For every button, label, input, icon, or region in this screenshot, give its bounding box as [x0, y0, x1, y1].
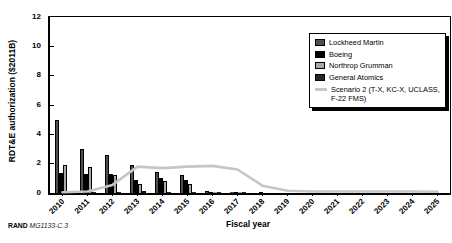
- general-atomics-swatch-icon: [315, 74, 325, 81]
- y-tick-label: 10: [19, 41, 41, 50]
- y-axis-title: RDT&E authorization ($2011B): [7, 21, 17, 181]
- y-tick-label: 0: [19, 188, 41, 197]
- y-tick-label: 12: [19, 12, 41, 21]
- x-tick: [362, 193, 363, 196]
- legend-label: Boeing: [329, 50, 441, 60]
- caption-rand: RAND: [8, 222, 28, 229]
- x-tick: [437, 193, 438, 196]
- legend-item-scenario-2: Scenario 2 (T-X, KC-X, UCLASS, F-22 FMS): [315, 85, 441, 104]
- x-tick: [162, 193, 163, 196]
- figure: RDT&E authorization ($2011B) Lockheed Ma…: [0, 0, 452, 243]
- legend-label: General Atomics: [329, 73, 441, 83]
- x-tick: [212, 193, 213, 196]
- x-tick: [287, 193, 288, 196]
- legend-item-boeing: Boeing: [315, 50, 441, 60]
- legend-item-lockheed-martin: Lockheed Martin: [315, 38, 441, 48]
- x-tick: [337, 193, 338, 196]
- x-tick: [412, 193, 413, 196]
- x-tick: [387, 193, 388, 196]
- x-tick: [87, 193, 88, 196]
- legend-label: Scenario 2 (T-X, KC-X, UCLASS, F-22 FMS): [331, 85, 441, 104]
- x-tick: [312, 193, 313, 196]
- x-tick: [112, 193, 113, 196]
- y-tick-label: 6: [19, 100, 41, 109]
- scenario-2-line: [63, 166, 438, 192]
- caption-doc-id: MG1133-C.3: [30, 222, 68, 229]
- lockheed-martin-swatch-icon: [315, 39, 325, 46]
- x-tick: [187, 193, 188, 196]
- northrop-grumman-swatch-icon: [315, 62, 325, 69]
- legend-item-general-atomics: General Atomics: [315, 73, 441, 83]
- x-tick: [137, 193, 138, 196]
- y-tick-label: 4: [19, 129, 41, 138]
- boeing-swatch-icon: [315, 51, 325, 58]
- scenario-2-line-swatch-icon: [315, 88, 327, 91]
- legend-item-northrop-grumman: Northrop Grumman: [315, 61, 441, 71]
- figure-caption: RAND MG1133-C.3: [8, 222, 68, 229]
- legend-label: Lockheed Martin: [329, 38, 441, 48]
- x-tick: [237, 193, 238, 196]
- y-tick-label: 8: [19, 70, 41, 79]
- legend: Lockheed Martin Boeing Northrop Grumman …: [309, 33, 446, 108]
- y-tick-label: 2: [19, 158, 41, 167]
- legend-label: Northrop Grumman: [329, 61, 441, 71]
- x-tick: [262, 193, 263, 196]
